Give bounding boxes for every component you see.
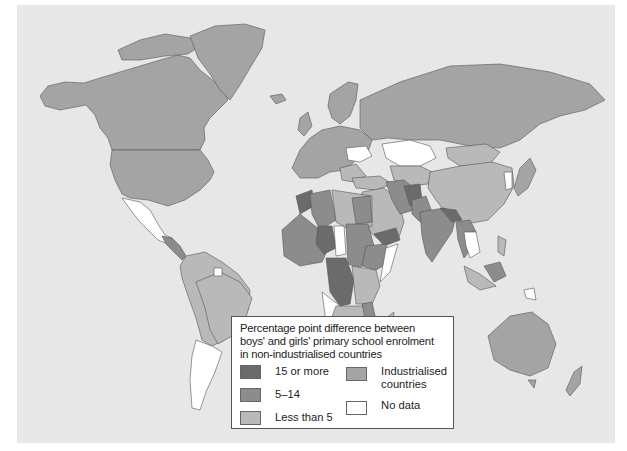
region-central-america — [162, 236, 186, 260]
region-turkey — [352, 176, 392, 190]
region-usa — [110, 150, 214, 206]
legend-title-line: Percentage point difference between — [240, 322, 447, 335]
region-philippines — [498, 236, 506, 256]
legend-item-industrialised: Industrialised countries — [346, 365, 447, 399]
region-guiana — [214, 268, 222, 276]
legend-swatch — [240, 388, 261, 402]
region-argentina-chile — [190, 340, 222, 410]
region-arctic-islands — [118, 34, 200, 60]
legend-item-less-than-5: Less than 5 — [240, 411, 346, 434]
region-algeria — [310, 190, 336, 230]
region-japan — [514, 158, 536, 196]
legend-swatch — [346, 401, 367, 415]
legend-item-no-data: No data — [346, 399, 447, 422]
legend-title: Percentage point difference between boys… — [240, 322, 447, 361]
legend-swatch — [240, 411, 261, 425]
region-new-zealand — [566, 366, 582, 396]
region-uk — [298, 112, 312, 136]
region-east-africa — [352, 266, 380, 304]
region-borneo — [484, 262, 506, 282]
legend-label: Less than 5 — [275, 411, 333, 424]
legend-swatch — [346, 367, 367, 381]
region-chad-nodata — [334, 226, 346, 256]
legend-label: No data — [381, 399, 420, 412]
region-australia — [488, 312, 556, 376]
region-kazakhstan — [382, 140, 436, 166]
region-canada — [40, 55, 228, 150]
legend-item-5-14: 5–14 — [240, 388, 346, 411]
region-russia — [360, 64, 605, 148]
region-papua — [524, 288, 536, 300]
region-iceland — [270, 94, 286, 104]
legend-swatch — [240, 365, 261, 379]
region-tasmania — [528, 380, 536, 388]
region-scandinavia — [328, 82, 358, 124]
legend-item-15-or-more: 15 or more — [240, 365, 346, 388]
legend-label: 15 or more — [275, 365, 329, 378]
legend-label-line: Industrialised — [381, 365, 447, 378]
legend-label-line: countries — [381, 378, 447, 391]
legend-label: 5–14 — [275, 388, 300, 401]
legend-label: Industrialised countries — [381, 365, 447, 391]
legend-title-line: in non-industrialised countries — [240, 348, 447, 361]
legend-title-line: boys' and girls' primary school enrolmen… — [240, 335, 447, 348]
map-legend: Percentage point difference between boys… — [231, 316, 454, 429]
